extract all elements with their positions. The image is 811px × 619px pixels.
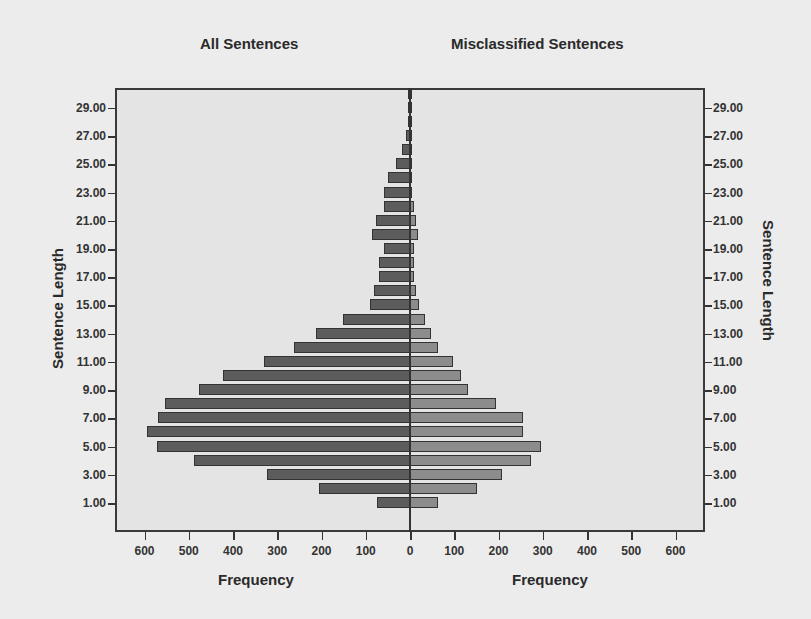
y-tick-right (705, 390, 712, 392)
y-tick-label-right: 13.00 (713, 327, 743, 341)
x-tick-label-center: 0 (390, 544, 430, 558)
x-tick-right (543, 532, 545, 540)
bar-all-sentences (374, 285, 410, 296)
x-tick-label-left: 300 (257, 544, 297, 558)
y-tick-left (108, 418, 115, 420)
y-tick-left (108, 221, 115, 223)
y-tick-right (705, 305, 712, 307)
bar-all-sentences (267, 469, 410, 480)
right-y-axis-title: Sentence Length (760, 216, 777, 346)
y-tick-label-left: 3.00 (60, 468, 106, 482)
bar-all-sentences (165, 398, 410, 409)
y-tick-right (705, 221, 712, 223)
bar-misclassified (410, 271, 414, 282)
y-tick-label-right: 5.00 (713, 440, 736, 454)
bar-misclassified (410, 328, 431, 339)
y-tick-label-right: 21.00 (713, 214, 743, 228)
y-tick-left (108, 475, 115, 477)
y-tick-left (108, 503, 115, 505)
y-tick-label-left: 13.00 (60, 327, 106, 341)
bar-misclassified (410, 426, 523, 437)
y-tick-label-left: 11.00 (60, 355, 106, 369)
bar-all-sentences (316, 328, 410, 339)
x-tick-right (676, 532, 678, 540)
bar-all-sentences (343, 314, 410, 325)
right-panel-title: Misclassified Sentences (451, 35, 624, 52)
y-tick-label-left: 19.00 (60, 242, 106, 256)
bar-all-sentences (384, 187, 410, 198)
x-tick-label-left: 200 (302, 544, 342, 558)
y-tick-label-right: 9.00 (713, 383, 736, 397)
y-tick-label-right: 23.00 (713, 186, 743, 200)
bar-all-sentences (384, 201, 410, 212)
y-tick-label-right: 27.00 (713, 129, 743, 143)
y-tick-label-left: 27.00 (60, 129, 106, 143)
y-tick-right (705, 334, 712, 336)
y-tick-right (705, 503, 712, 505)
x-tick-label-left: 600 (125, 544, 165, 558)
y-tick-label-right: 7.00 (713, 411, 736, 425)
y-tick-label-right: 3.00 (713, 468, 736, 482)
bar-all-sentences (388, 172, 410, 183)
bar-all-sentences (370, 299, 410, 310)
y-tick-label-left: 29.00 (60, 101, 106, 115)
y-tick-right (705, 362, 712, 364)
bar-all-sentences (396, 158, 410, 169)
x-tick-label-left: 500 (169, 544, 209, 558)
bar-misclassified (410, 370, 461, 381)
y-tick-right (705, 249, 712, 251)
x-tick-center (410, 532, 412, 540)
y-tick-label-right: 25.00 (713, 157, 743, 171)
bar-all-sentences (147, 426, 410, 437)
y-tick-left (108, 108, 115, 110)
y-tick-label-left: 9.00 (60, 383, 106, 397)
x-tick-right (454, 532, 456, 540)
zero-axis-line (409, 88, 411, 532)
bar-misclassified (410, 412, 523, 423)
bar-all-sentences (157, 441, 410, 452)
right-x-axis-title: Frequency (512, 571, 588, 588)
bar-misclassified (410, 201, 414, 212)
y-tick-left (108, 334, 115, 336)
x-tick-left (145, 532, 147, 540)
y-tick-label-right: 29.00 (713, 101, 743, 115)
bar-all-sentences (158, 412, 410, 423)
y-tick-right (705, 475, 712, 477)
bar-misclassified (410, 257, 414, 268)
y-tick-left (108, 362, 115, 364)
y-tick-label-left: 7.00 (60, 411, 106, 425)
y-tick-label-right: 11.00 (713, 355, 742, 369)
y-tick-right (705, 108, 712, 110)
bar-misclassified (410, 285, 416, 296)
bar-misclassified (410, 299, 419, 310)
y-tick-right (705, 447, 712, 449)
x-tick-label-left: 400 (213, 544, 253, 558)
bar-all-sentences (223, 370, 410, 381)
bar-all-sentences (384, 243, 410, 254)
bar-misclassified (410, 243, 414, 254)
left-y-axis-title: Sentence Length (49, 244, 66, 374)
bar-misclassified (410, 441, 541, 452)
bar-misclassified (410, 384, 468, 395)
y-tick-right (705, 164, 712, 166)
y-tick-label-right: 1.00 (713, 496, 736, 510)
y-tick-right (705, 418, 712, 420)
bar-all-sentences (379, 257, 410, 268)
bar-misclassified (410, 229, 418, 240)
left-panel-title: All Sentences (200, 35, 298, 52)
bar-misclassified (410, 497, 438, 508)
x-tick-label-left: 100 (346, 544, 386, 558)
y-tick-left (108, 164, 115, 166)
bar-misclassified (410, 356, 453, 367)
left-x-axis-title: Frequency (218, 571, 294, 588)
y-tick-left (108, 447, 115, 449)
bar-misclassified (410, 469, 502, 480)
bar-all-sentences (379, 271, 410, 282)
bar-all-sentences (294, 342, 410, 353)
x-tick-right (587, 532, 589, 540)
bar-misclassified (410, 398, 496, 409)
y-tick-right (705, 193, 712, 195)
x-tick-right (499, 532, 501, 540)
y-tick-label-left: 17.00 (60, 270, 106, 284)
y-tick-label-left: 23.00 (60, 186, 106, 200)
